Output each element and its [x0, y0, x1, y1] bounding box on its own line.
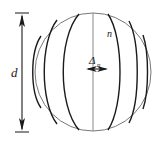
figure-container: d n Δ n	[0, 0, 160, 141]
sphere-zone-figure	[0, 0, 160, 141]
diameter-dimension	[15, 13, 29, 132]
